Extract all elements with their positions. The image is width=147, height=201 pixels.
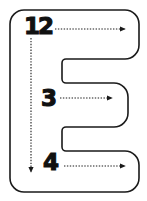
letter-stroke-diagram: 1 2 3 4 (0, 0, 147, 201)
stroke-number-3: 3 (41, 87, 57, 110)
letter-e-svg (0, 0, 147, 201)
stroke-number-4: 4 (43, 151, 59, 174)
stroke-number-2: 2 (38, 15, 54, 38)
